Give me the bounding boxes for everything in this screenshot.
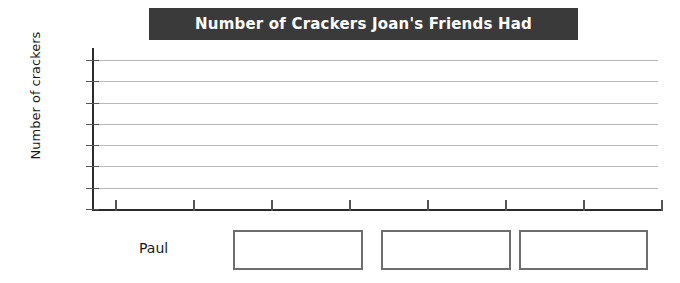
x-axis-tick	[115, 200, 117, 211]
gridline	[92, 103, 658, 104]
x-axis-tick	[505, 200, 507, 211]
x-axis-tick	[271, 200, 273, 211]
y-axis-tick	[86, 209, 99, 210]
gridline	[92, 124, 658, 125]
y-axis-line	[92, 48, 94, 211]
gridline	[92, 60, 658, 61]
x-axis-tick	[661, 200, 663, 211]
plot-area	[92, 48, 662, 211]
x-axis-tick	[583, 200, 585, 211]
gridline	[92, 188, 658, 189]
x-axis-line	[92, 209, 662, 211]
answer-box-1[interactable]	[233, 230, 363, 270]
chart-title-banner: Number of Crackers Joan's Friends Had	[149, 8, 578, 40]
y-axis-tick	[86, 166, 99, 167]
x-axis-tick	[349, 200, 351, 211]
answer-box-3[interactable]	[519, 230, 648, 270]
y-axis-tick	[86, 188, 99, 189]
y-axis-tick	[86, 145, 99, 146]
gridline	[92, 145, 658, 146]
answer-box-2[interactable]	[381, 230, 511, 270]
x-axis-tick	[193, 200, 195, 211]
worksheet-page: Number of Crackers Joan's Friends Had Nu…	[0, 0, 680, 283]
x-axis-tick	[427, 200, 429, 211]
chart-title: Number of Crackers Joan's Friends Had	[195, 15, 532, 33]
y-axis-tick	[86, 81, 99, 82]
y-axis-tick	[86, 60, 99, 61]
y-axis-tick	[86, 103, 99, 104]
gridline	[92, 166, 658, 167]
student-name-label: Paul	[139, 240, 168, 256]
gridline	[92, 81, 658, 82]
y-axis-title: Number of crackers	[28, 16, 43, 176]
y-axis-tick	[86, 124, 99, 125]
